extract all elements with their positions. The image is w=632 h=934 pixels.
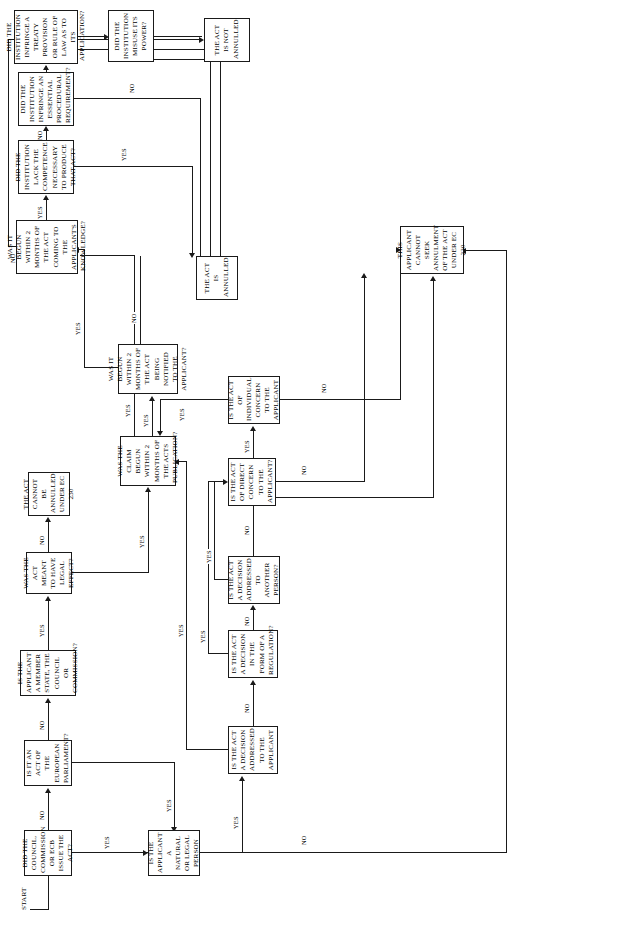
- edge-n10-n15-v: [74, 166, 192, 167]
- edge-label-n4-n16: YES: [232, 815, 239, 830]
- edge-start-to-n1: [48, 876, 49, 910]
- node-2-months-knowledge[interactable]: WAS IT BEGUN WITHIN 2 MONTHS OF THE ACT …: [16, 220, 78, 274]
- edge-label-n7-n10: YES: [124, 403, 131, 418]
- edge-n11-n15-h: [200, 98, 201, 256]
- edge-label-n20-n7: YES: [178, 407, 185, 422]
- edge-n20-n21-v: [280, 399, 400, 400]
- flowchart-stage: START DID THE COUNCIL, COMMISSION OR ECB…: [0, 0, 632, 934]
- edge-n12-n15-h: [210, 48, 211, 256]
- edge-label-n18-n21: NO: [243, 524, 250, 536]
- arrow-n10-n15: [189, 253, 195, 258]
- arrow-n16-n17: [250, 680, 256, 685]
- edge-label-n20-n21: NO: [320, 382, 327, 394]
- arrow-n18-n21: [430, 276, 436, 281]
- arrow-n7-n8: [149, 396, 155, 401]
- edge-n18-n21-h2: [433, 280, 434, 498]
- edge-n18-n21-v: [253, 497, 433, 498]
- edge-start-stub: [30, 909, 49, 910]
- node-act-meant-legal-effect[interactable]: WAS THE ACT MEANT TO HAVE LEGAL EFFECT?: [26, 552, 72, 594]
- node-european-parliament-act[interactable]: IS IT AN ACT OF THE EUROPEAN PARLIAMENT?: [24, 740, 72, 786]
- node-institution-infringe-procedural[interactable]: DID THE INSTITUTION INFRINGE AN ESSENTIA…: [18, 72, 74, 126]
- node-applicant-member-state[interactable]: IS THE APPLICANT A MEMBER STATE, THE COU…: [20, 650, 76, 696]
- edge-n7-n10-v: [80, 255, 135, 256]
- node-act-cannot-be-annulled[interactable]: THE ACT CANNOT BE ANNULLED UNDER EC 230: [28, 472, 70, 516]
- node-decision-addressed-another-person[interactable]: IS THE ACT A DECISION ADDRESSED TO ANOTH…: [228, 556, 280, 604]
- edge-n19-n21-h: [364, 276, 365, 482]
- flowchart-canvas: START DID THE COUNCIL, COMMISSION OR ECB…: [0, 0, 632, 934]
- edge-n13-n14-v: [154, 36, 202, 37]
- node-claim-2-months-publication[interactable]: WAS THE CLAIM BEGUN WITHIN 2 MONTHS OF T…: [120, 436, 176, 486]
- node-institution-infringe-treaty[interactable]: DID THE INSTITUTION INFRINGE A TREATY PR…: [14, 10, 78, 64]
- edge-label-n11-n15: NO: [128, 82, 135, 94]
- node-council-commission-ecb[interactable]: DID THE COUNCIL, COMMISSION OR ECB ISSUE…: [24, 830, 72, 876]
- edge-label-n19-n21: NO: [300, 464, 307, 476]
- edge-n18-n19-h: [214, 482, 215, 580]
- edge-n9-n14-h: [8, 40, 9, 247]
- edge-n7-n8: [152, 400, 153, 436]
- edge-label-n16-n17: NO: [243, 702, 250, 714]
- node-act-not-annulled[interactable]: THE ACT IS NOT ANNULLED: [204, 18, 250, 62]
- edge-label-n4-n21: NO: [300, 834, 307, 846]
- edge-n1-n4-v: [72, 852, 148, 853]
- edge-n16-n7-h: [186, 462, 187, 750]
- edge-n6-n7-h: [148, 491, 149, 573]
- arrow-n4-n16: [239, 776, 245, 781]
- edge-label-n6-n5: NO: [38, 534, 45, 546]
- arrow-n6-n5: [45, 517, 51, 522]
- node-institution-misuse-power[interactable]: DID THE INSTITUTION MISUSE ITS POWER?: [108, 10, 154, 62]
- edge-n6-n7-v: [72, 572, 148, 573]
- edge-n1-n2: [48, 792, 49, 830]
- edge-label-n2-n4: YES: [165, 798, 172, 813]
- node-applicant-cannot-seek-annulment[interactable]: THIS APPLICANT CANNOT SEEK ANNULMENT OF …: [400, 226, 464, 274]
- edge-label-n16-n7: YES: [177, 623, 184, 638]
- edge-n3-n6: [48, 600, 49, 650]
- edge-label-n3-n6: YES: [38, 623, 45, 638]
- arrow-n1-n2: [45, 788, 51, 793]
- edge-label-n10-n15: YES: [120, 147, 127, 162]
- edge-label-n19-n20: YES: [243, 439, 250, 454]
- edge-n8-n10-h: [140, 256, 141, 344]
- edge-n17-n18: [253, 608, 254, 630]
- edge-n6-n5: [48, 520, 49, 552]
- edge-n9-n10: [46, 198, 47, 220]
- edge-label-n1-n2: NO: [38, 809, 45, 821]
- edge-n10-n15-h: [192, 166, 193, 256]
- edge-n17-n19-h: [208, 482, 209, 654]
- arrow-n19-n21: [361, 273, 367, 278]
- node-act-direct-concern[interactable]: IS THE ACT OF DIRECT CONCERN TO THE APPL…: [228, 458, 276, 506]
- edge-n17-n19-v: [208, 653, 229, 654]
- edge-label-n17-n19: YES: [199, 629, 206, 644]
- edge-n18-n21-h: [253, 498, 254, 556]
- edge-label-n8-n10: NO: [130, 312, 137, 324]
- arrow-n9-n10: [43, 195, 49, 200]
- edge-label-n8-n9: YES: [74, 321, 81, 336]
- node-decision-addressed-to-applicant[interactable]: IS THE ACT A DECISION ADDRESSED TO THE A…: [228, 726, 278, 774]
- edge-label-n1-n4: YES: [103, 835, 110, 850]
- node-act-individual-concern[interactable]: IS THE ACT OF INDIVIDUAL CONCERN TO THE …: [228, 376, 280, 424]
- arrow-n6-n7: [145, 487, 151, 492]
- node-institution-lack-competence[interactable]: DID THE INSTITUTION LACK THE COMPETENCE …: [18, 140, 74, 194]
- edge-n13-n15-h: [220, 60, 221, 256]
- edge-n4-n16-h: [242, 780, 243, 853]
- edge-label-n9-n10: YES: [36, 205, 43, 220]
- arrow-n10-n11: [43, 126, 49, 131]
- start-label: START: [20, 888, 28, 910]
- edge-n4-n21-v: [200, 852, 506, 853]
- node-act-is-annulled[interactable]: THE ACT IS ANNULLED: [196, 256, 238, 300]
- node-decision-form-of-regulation[interactable]: IS THE ACT A DECISION IN THE FORM OF A R…: [228, 630, 278, 678]
- edge-n2-n4-v: [72, 762, 174, 763]
- arrow-n11-n12: [43, 65, 49, 70]
- node-applicant-natural-legal-person[interactable]: IS THE APPLICANT A NATURAL OR LEGAL PERS…: [148, 830, 200, 876]
- edge-n4-n21-h: [506, 251, 507, 853]
- arrow-n19-n20: [250, 426, 256, 431]
- arrow-n3-n6: [45, 596, 51, 601]
- edge-n20-n7-h: [160, 399, 161, 434]
- edge-n2-n4-h: [174, 762, 175, 830]
- edge-n19-n21-v: [276, 481, 364, 482]
- node-2-months-notified[interactable]: WAS IT BEGUN WITHIN 2 MONTHS OF THE ACT …: [118, 344, 178, 394]
- edge-n20-n7-v: [160, 399, 229, 400]
- edge-label-n17-n18: NO: [243, 615, 250, 627]
- edge-n16-n17: [253, 684, 254, 726]
- arrow-n17-n18: [250, 605, 256, 610]
- edge-n4-n21-v2: [464, 250, 507, 251]
